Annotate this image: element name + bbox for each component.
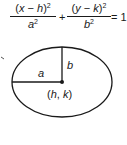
center-point	[60, 80, 64, 84]
arrow-mark	[1, 57, 4, 59]
ellipse-diagram	[0, 0, 127, 145]
label-center: (h, k)	[47, 88, 72, 100]
label-a: a	[38, 67, 44, 79]
label-b: b	[67, 59, 73, 71]
center-coordinates: (h, k)	[47, 88, 72, 100]
